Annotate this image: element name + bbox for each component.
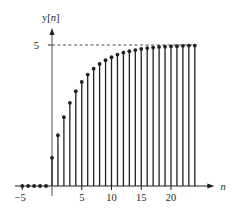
stem-marker xyxy=(32,184,36,188)
stem-marker xyxy=(44,184,48,188)
stems xyxy=(20,44,196,188)
stem-marker xyxy=(92,67,96,71)
stem-marker xyxy=(104,58,108,62)
stem-marker xyxy=(80,80,84,84)
y-tick-label-5: 5 xyxy=(34,40,39,51)
stem-marker xyxy=(133,48,137,52)
labels: −55101520y[n]5n xyxy=(15,12,226,203)
stem-marker xyxy=(68,101,72,105)
stem-marker xyxy=(62,115,66,119)
stem-marker xyxy=(26,184,30,188)
stem-marker xyxy=(181,44,185,48)
x-tick-label: 15 xyxy=(136,192,147,203)
stem-marker xyxy=(50,156,54,160)
y-axis-arrow-icon xyxy=(50,28,55,35)
stem-marker xyxy=(187,44,191,48)
x-tick-label: 5 xyxy=(79,192,84,203)
stem-marker xyxy=(74,89,78,93)
stem-marker xyxy=(122,51,126,55)
x-axis-arrow-icon xyxy=(207,184,214,189)
x-tick-label: −5 xyxy=(15,192,26,203)
stem-marker xyxy=(145,46,149,50)
stem-marker xyxy=(151,46,155,50)
stem-marker xyxy=(175,44,179,48)
x-tick-label: 20 xyxy=(166,192,177,203)
stem-plot: −55101520y[n]5n xyxy=(0,0,235,217)
stem-marker xyxy=(38,184,42,188)
stem-marker xyxy=(169,45,173,49)
stem-marker xyxy=(110,55,114,59)
x-axis-label: n xyxy=(220,181,225,192)
stem-marker xyxy=(56,133,60,137)
y-axis-label: y[n] xyxy=(42,12,60,23)
stem-marker xyxy=(163,45,167,49)
stem-marker xyxy=(116,53,120,57)
axes xyxy=(15,28,214,196)
stem-marker xyxy=(157,45,161,49)
stem-marker xyxy=(98,62,102,66)
stem-marker xyxy=(86,73,90,77)
x-tick-label: 10 xyxy=(106,192,117,203)
stem-marker xyxy=(20,184,24,188)
stem-marker xyxy=(193,44,197,48)
stem-marker xyxy=(127,49,131,53)
stem-marker xyxy=(139,47,143,51)
